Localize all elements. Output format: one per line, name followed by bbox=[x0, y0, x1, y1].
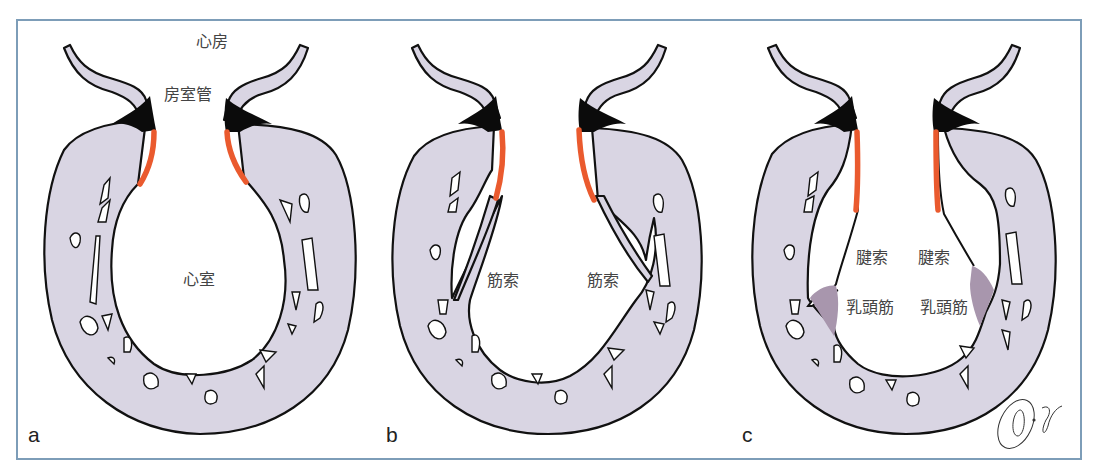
panel-a: 心房 房室管 心室 a bbox=[28, 32, 356, 446]
label-papillary-left: 乳頭筋 bbox=[846, 298, 894, 317]
label-muscle-cord-right: 筋索 bbox=[587, 271, 619, 290]
panel-c: 腱索 腱索 乳頭筋 乳頭筋 c bbox=[742, 45, 1056, 446]
label-chordae-right: 腱索 bbox=[918, 248, 950, 267]
panel-letter-b: b bbox=[386, 423, 398, 446]
label-atrium: 心房 bbox=[196, 32, 228, 51]
panel-letter-a: a bbox=[28, 423, 40, 446]
panel-letter-c: c bbox=[742, 423, 753, 446]
label-muscle-cord-left: 筋索 bbox=[487, 271, 519, 290]
label-papillary-right: 乳頭筋 bbox=[920, 298, 968, 317]
panel-b: 筋索 筋索 b bbox=[386, 45, 702, 446]
label-ventricle: 心室 bbox=[183, 270, 215, 289]
label-av-canal: 房室管 bbox=[164, 85, 212, 104]
label-chordae-left: 腱索 bbox=[856, 248, 888, 267]
heart-valve-development-diagram: 心房 房室管 心室 a 筋索 筋索 b bbox=[0, 0, 1100, 476]
